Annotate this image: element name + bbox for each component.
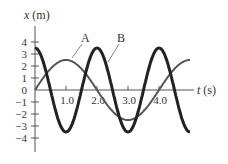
svg-text:4: 4 bbox=[22, 36, 28, 48]
svg-text:−3: −3 bbox=[15, 120, 27, 132]
y-axis-label: x (m) bbox=[23, 8, 50, 22]
label-a: A bbox=[81, 31, 90, 45]
svg-text:2: 2 bbox=[22, 60, 28, 72]
label-b-leader bbox=[108, 44, 119, 62]
svg-text:0: 0 bbox=[22, 84, 28, 96]
svg-text:−4: −4 bbox=[15, 132, 27, 144]
svg-text:3: 3 bbox=[22, 48, 28, 60]
x-axis-label: t (s) bbox=[197, 83, 216, 97]
chart: 43210−1−2−3−4 1.02.03.04.0 x (m) t (s) A… bbox=[0, 0, 228, 164]
label-a-leader bbox=[72, 44, 82, 58]
svg-text:−2: −2 bbox=[15, 108, 27, 120]
svg-text:3.0: 3.0 bbox=[122, 94, 136, 106]
svg-text:1.0: 1.0 bbox=[60, 94, 74, 106]
svg-text:1: 1 bbox=[22, 72, 28, 84]
label-b: B bbox=[117, 31, 125, 45]
svg-text:−1: −1 bbox=[15, 96, 27, 108]
